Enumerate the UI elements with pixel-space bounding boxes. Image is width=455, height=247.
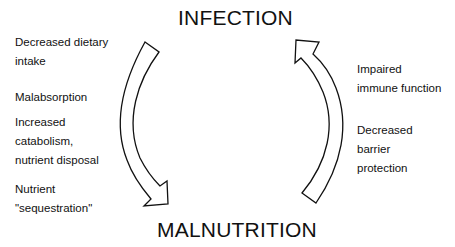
- label-decreased-barrier-protection: Decreased barrier protection: [357, 121, 413, 178]
- label-nutrient-sequestration: Nutrient "sequestration": [15, 180, 92, 218]
- label-malabsorption: Malabsorption: [15, 88, 87, 107]
- label-decreased-dietary-intake: Decreased dietary intake: [15, 33, 108, 71]
- label-increased-catabolism: Increased catabolism, nutrient disposal: [15, 113, 99, 170]
- arrow-infection-to-malnutrition-icon: [120, 42, 168, 206]
- label-impaired-immune-function: Impaired immune function: [357, 60, 441, 98]
- arrow-malnutrition-to-infection-icon: [295, 40, 343, 203]
